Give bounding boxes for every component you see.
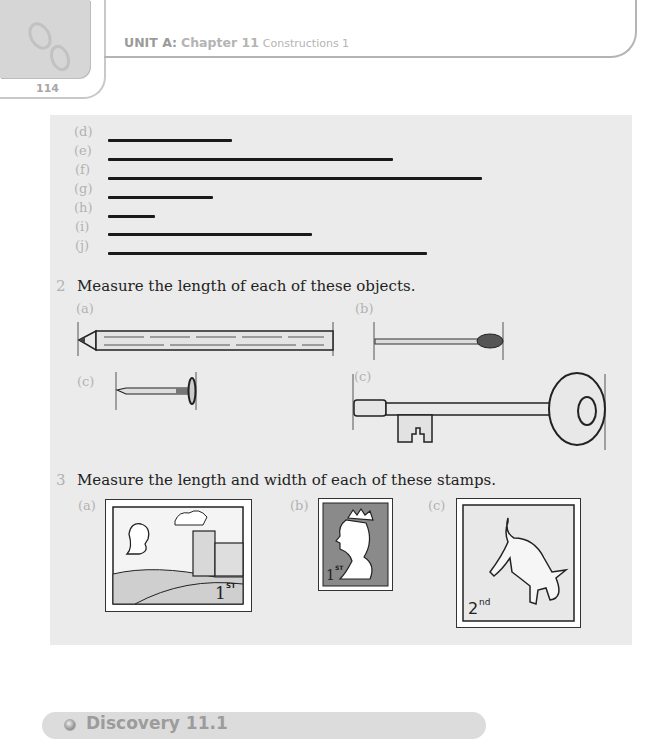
pencil-icon — [74, 318, 339, 360]
stamp-castle: 1 ST — [105, 499, 253, 613]
line-d — [108, 139, 232, 142]
discovery-title: Discovery 11.1 — [86, 713, 228, 733]
line-e — [108, 158, 393, 161]
match-icon — [370, 320, 510, 362]
svg-text:1: 1 — [326, 567, 335, 583]
item-label-d: (d) — [74, 124, 92, 139]
svg-text:nd: nd — [479, 597, 490, 607]
chapter-title: Constructions 1 — [263, 37, 349, 50]
bullet-icon — [64, 719, 76, 731]
stamp-label-c: (c) — [428, 498, 445, 513]
stamp-dog: 2 nd — [456, 498, 582, 629]
item-label-f: (f) — [75, 162, 90, 177]
unit-label: UNIT A: — [124, 35, 177, 50]
item-label-i: (i) — [75, 219, 89, 234]
line-g — [108, 196, 213, 199]
object-label-c: (c) — [77, 374, 94, 389]
object-label-a: (a) — [76, 301, 94, 316]
stamp-label-b: (b) — [290, 498, 308, 513]
key-icon — [350, 372, 610, 452]
item-label-j: (j) — [75, 238, 89, 253]
svg-text:ST: ST — [335, 564, 344, 571]
question2-text: Measure the length of each of these obje… — [77, 277, 415, 295]
object-label-b: (b) — [355, 301, 373, 316]
line-f — [108, 177, 482, 180]
line-i — [108, 233, 312, 236]
line-j — [108, 252, 427, 255]
chapter-label: Chapter 11 — [181, 35, 259, 50]
item-label-e: (e) — [74, 143, 92, 158]
question3-text: Measure the length and width of each of … — [77, 471, 496, 489]
line-h — [108, 215, 155, 218]
item-label-h: (h) — [74, 200, 93, 215]
page-number: 114 — [36, 82, 59, 95]
svg-text:2: 2 — [468, 599, 478, 618]
stamp-label-a: (a) — [78, 498, 96, 513]
chapter-heading: UNIT A: Chapter 11 Constructions 1 — [124, 35, 349, 50]
svg-text:1: 1 — [215, 583, 226, 603]
stamp-queen: 1 ST — [318, 498, 394, 592]
svg-text:ST: ST — [226, 582, 236, 590]
question3-number: 3 — [56, 471, 66, 489]
nail-icon — [112, 370, 202, 412]
item-label-g: (g) — [74, 181, 92, 196]
question2-number: 2 — [56, 277, 66, 295]
